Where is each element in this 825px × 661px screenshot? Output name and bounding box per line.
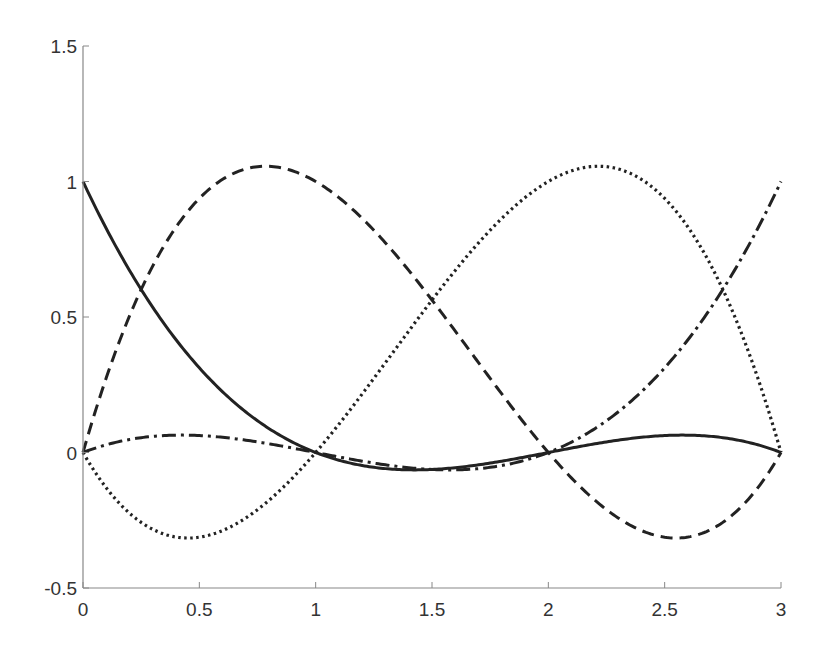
x-tick-label: 0 bbox=[78, 599, 89, 620]
plot-lines bbox=[83, 166, 781, 538]
y-tick-label: 0.5 bbox=[51, 307, 77, 328]
y-ticks: -0.500.511.5 bbox=[44, 36, 89, 599]
x-tick-label: 3 bbox=[776, 599, 787, 620]
y-tick-label: -0.5 bbox=[44, 578, 77, 599]
series-line-l0 bbox=[83, 182, 781, 470]
line-chart: 00.511.522.53 -0.500.511.5 bbox=[0, 0, 825, 661]
series-line-l3 bbox=[83, 182, 781, 470]
x-tick-label: 1.5 bbox=[419, 599, 445, 620]
x-tick-label: 1 bbox=[310, 599, 321, 620]
x-tick-label: 2 bbox=[543, 599, 554, 620]
y-tick-label: 1 bbox=[66, 172, 77, 193]
x-tick-label: 0.5 bbox=[186, 599, 212, 620]
x-tick-label: 2.5 bbox=[651, 599, 677, 620]
y-tick-label: 0 bbox=[66, 443, 77, 464]
y-tick-label: 1.5 bbox=[51, 36, 77, 57]
